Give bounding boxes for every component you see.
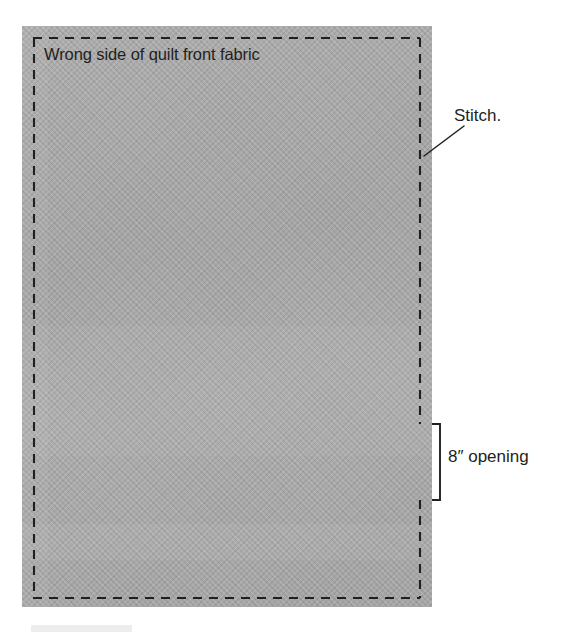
page-footer-artifact <box>31 625 132 632</box>
stitch-callout-leader-line <box>424 126 464 156</box>
opening-callout-label: 8″ opening <box>448 447 529 467</box>
opening-measurement-bracket <box>432 424 440 500</box>
fabric-panel-label: Wrong side of quilt front fabric <box>44 45 260 64</box>
diagram-line-overlay <box>0 0 567 634</box>
stitch-callout-label: Stitch. <box>454 106 501 126</box>
quilt-sewing-diagram: Wrong side of quilt front fabric Stitch.… <box>0 0 567 634</box>
